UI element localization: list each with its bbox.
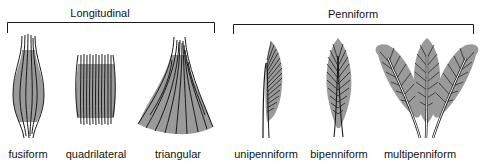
muscle-fusiform	[13, 34, 44, 138]
label-multipenniform: multipenniform	[384, 148, 456, 160]
group-label-longitudinal: Longitudinal	[70, 7, 129, 19]
label-bipenniform: bipenniform	[310, 148, 367, 160]
group-longitudinal: Longitudinal	[8, 7, 215, 33]
bracket-longitudinal	[8, 23, 215, 34]
muscle-quadrilateral	[76, 54, 116, 125]
bracket-penniform	[234, 25, 474, 35]
label-triangular: triangular	[155, 148, 201, 160]
group-penniform: Penniform	[234, 8, 474, 34]
label-unipenniform: unipenniform	[234, 148, 298, 160]
muscle-triangular	[138, 37, 213, 134]
muscle-multipenniform	[376, 38, 479, 138]
group-label-penniform: Penniform	[328, 8, 378, 20]
muscle-shapes-diagram: Longitudinal Penniform	[0, 0, 481, 168]
label-fusiform: fusiform	[8, 148, 47, 160]
muscle-bipenniform	[326, 38, 351, 137]
muscle-unipenniform	[263, 40, 282, 138]
label-quadrilateral: quadrilateral	[66, 148, 127, 160]
